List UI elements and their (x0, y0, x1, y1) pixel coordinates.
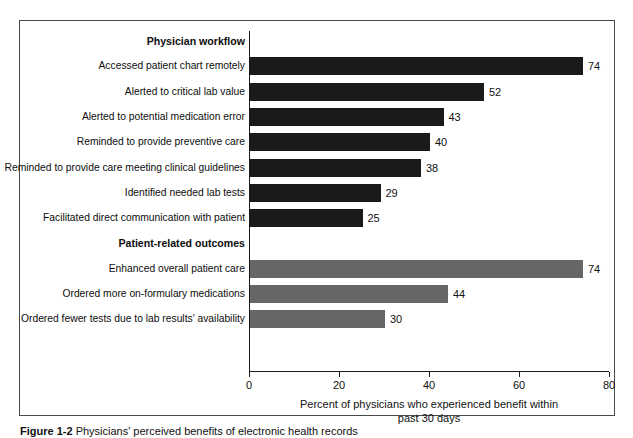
chart-bar-category-label: Accessed patient chart remotely (0, 56, 245, 76)
chart-bar (250, 310, 385, 328)
x-axis-tick (249, 372, 250, 377)
figure-caption-text: Physicians' perceived benefits of electr… (76, 425, 358, 437)
chart-bar-category-label: Ordered more on-formulary medications (0, 284, 245, 304)
chart-bar-category-label: Facilitated direct communication with pa… (0, 208, 245, 228)
chart-bar (250, 285, 448, 303)
chart-bar-value-label: 44 (453, 284, 465, 304)
chart-bar-value-label: 43 (449, 107, 461, 127)
x-axis-tick-label: 0 (246, 379, 252, 392)
x-axis-title: Percent of physicians who experienced be… (249, 397, 609, 425)
figure-caption-label: Figure 1-2 (20, 425, 73, 437)
x-axis-title-line-1: Percent of physicians who experienced be… (249, 397, 609, 411)
x-axis-tick (429, 372, 430, 377)
x-axis-tick-label: 80 (603, 379, 615, 392)
chart-bar-row: Accessed patient chart remotely74 (249, 56, 609, 76)
chart-bar-row: Facilitated direct communication with pa… (249, 208, 609, 228)
x-axis-tick-label: 40 (423, 379, 435, 392)
x-axis-tick (609, 372, 610, 377)
chart-bar-row: Ordered fewer tests due to lab results' … (249, 309, 609, 329)
chart-bar-category-label: Enhanced overall patient care (0, 259, 245, 279)
chart-bar (250, 83, 484, 101)
chart-plot-area: 020406080 Physician workflowAccessed pat… (249, 31, 609, 371)
chart-bar-category-label: Alerted to potential medication error (0, 107, 245, 127)
chart-bar-value-label: 30 (390, 309, 402, 329)
x-axis-tick (339, 372, 340, 377)
chart-bar (250, 133, 430, 151)
x-axis-tick-label: 20 (333, 379, 345, 392)
chart-bar-value-label: 25 (368, 208, 380, 228)
chart-bar (250, 209, 363, 227)
x-axis-title-line-2: past 30 days (249, 411, 609, 425)
chart-bar (250, 108, 444, 126)
chart-bar-value-label: 74 (588, 56, 600, 76)
x-axis-tick (519, 372, 520, 377)
chart-group-header-label: Patient-related outcomes (0, 233, 245, 253)
chart-bar-row: Alerted to critical lab value52 (249, 82, 609, 102)
figure-frame: 020406080 Physician workflowAccessed pat… (19, 20, 615, 416)
chart-bar-row: Reminded to provide preventive care40 (249, 132, 609, 152)
chart-bar-category-label: Reminded to provide preventive care (0, 132, 245, 152)
chart-bar-row: Enhanced overall patient care74 (249, 259, 609, 279)
chart-group-header-row: Physician workflow (249, 31, 609, 51)
chart-bar-value-label: 40 (435, 132, 447, 152)
chart-bar-value-label: 52 (489, 82, 501, 102)
chart-bar-row: Ordered more on-formulary medications44 (249, 284, 609, 304)
chart-bar-category-label: Ordered fewer tests due to lab results' … (0, 309, 245, 329)
x-axis-tick-label: 60 (513, 379, 525, 392)
chart-bar-category-label: Reminded to provide care meeting clinica… (0, 158, 245, 178)
chart-bar (250, 184, 381, 202)
chart-bar-value-label: 74 (588, 259, 600, 279)
chart-bar (250, 159, 421, 177)
chart-bar-category-label: Identified needed lab tests (0, 183, 245, 203)
chart-group-header-label: Physician workflow (0, 31, 245, 51)
figure-caption: Figure 1-2 Physicians' perceived benefit… (20, 424, 600, 438)
chart-bar-value-label: 29 (386, 183, 398, 203)
chart-bar-row: Reminded to provide care meeting clinica… (249, 158, 609, 178)
chart-bar-row: Identified needed lab tests29 (249, 183, 609, 203)
chart-group-header-row: Patient-related outcomes (249, 233, 609, 253)
chart-bar (250, 260, 583, 278)
chart-bar-category-label: Alerted to critical lab value (0, 82, 245, 102)
chart-bar-row: Alerted to potential medication error43 (249, 107, 609, 127)
chart-bar (250, 57, 583, 75)
chart-bar-value-label: 38 (426, 158, 438, 178)
